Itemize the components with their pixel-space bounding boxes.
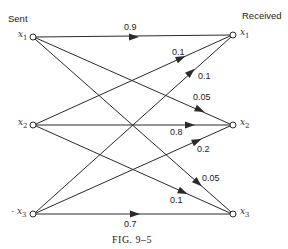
- received-label-x2: x2: [240, 118, 250, 130]
- prob-label-x2-x3: 0.1: [170, 196, 183, 205]
- prob-label-x3-x1: 0.1: [198, 72, 211, 81]
- prob-label-x1-x3: 0.05: [202, 174, 220, 183]
- received-node-x3: [230, 211, 236, 217]
- prob-label-x1-x1: 0.9: [124, 23, 137, 32]
- figure-caption: FIG. 9–5: [112, 234, 152, 245]
- received-node-x2: [230, 122, 236, 128]
- sent-label-x2: x2: [18, 118, 28, 130]
- sent-header: Sent: [8, 14, 28, 24]
- arrow-icon: [130, 211, 140, 218]
- sent-label-x1: x1: [18, 30, 28, 42]
- arrow-icon: [185, 122, 195, 129]
- channel-diagram: Sent Received x1 x2 - x3 x1 x2 x3 0.9 0.…: [0, 0, 288, 249]
- sent-node-x1: [30, 34, 36, 40]
- received-label-x3: x3: [240, 207, 250, 219]
- sent-label-x3: - x3: [11, 207, 26, 219]
- received-label-x1: x1: [240, 28, 250, 40]
- sent-node-x3: [30, 211, 36, 217]
- arrow-icon: [194, 105, 206, 115]
- arrow-icon: [129, 34, 139, 41]
- received-node-x1: [230, 32, 236, 38]
- received-header: Received: [242, 11, 282, 21]
- prob-label-x2-x1: 0.1: [172, 48, 185, 57]
- prob-label-x3-x3: 0.7: [124, 220, 137, 229]
- sent-node-x2: [30, 122, 36, 128]
- prob-label-x1-x2: 0.05: [193, 93, 211, 102]
- prob-label-x2-x2: 0.8: [170, 128, 183, 137]
- prob-label-x3-x2: 0.2: [197, 145, 210, 154]
